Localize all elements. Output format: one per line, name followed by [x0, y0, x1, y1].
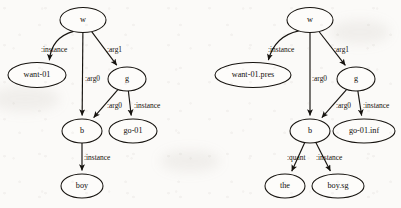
edge-label-w-g: :arg1	[107, 45, 122, 54]
node-go2[interactable]: go-01.inf	[333, 119, 395, 143]
edge-label-w2-g2: :arg1	[334, 45, 349, 54]
edge-label-w-b: :arg0	[85, 74, 100, 83]
edge-labels-layer: :instance:arg0:arg1:arg0:instance:instan…	[41, 45, 390, 162]
node-g[interactable]: g	[108, 67, 146, 91]
node-label-the: the	[280, 181, 290, 190]
node-label-b: b	[80, 126, 84, 135]
node-label-boy: boy	[76, 181, 89, 190]
edge-label-w-want: :instance	[41, 45, 68, 54]
node-want[interactable]: want-01	[8, 63, 66, 88]
node-g2[interactable]: g	[337, 67, 375, 91]
edge-label-g-b: :arg0	[107, 101, 122, 110]
node-label-want: want-01	[24, 70, 51, 79]
edges-layer	[49, 31, 361, 171]
node-b2[interactable]: b	[290, 119, 330, 143]
diagram-canvas: wwant-01gbgo-01boywwant-01.presgbgo-01.i…	[0, 0, 401, 208]
edge-label-g-go: :instance	[134, 101, 161, 110]
edge-label-b-boy: :instance	[84, 153, 111, 162]
node-label-w2: w	[307, 15, 313, 24]
node-boy[interactable]: boy	[61, 174, 103, 198]
edge-label-g2-go2: :instance	[363, 101, 390, 110]
edge-label-b2-the: :quant	[287, 153, 306, 162]
amr-graph-pair: wwant-01gbgo-01boywwant-01.presgbgo-01.i…	[0, 0, 401, 208]
edge-label-w2-want2: :instance	[268, 45, 295, 54]
node-label-go: go-01	[123, 126, 142, 135]
node-label-g: g	[125, 74, 129, 83]
edge-g-go	[128, 91, 131, 116]
node-label-want2: want-01.pres	[232, 70, 275, 79]
node-label-go2: go-01.inf	[349, 126, 380, 135]
node-w2[interactable]: w	[287, 8, 333, 33]
node-b[interactable]: b	[62, 119, 102, 143]
edge-w-b	[82, 33, 83, 116]
edge-label-w2-b2: :arg0	[312, 74, 327, 83]
edge-label-b2-boysg: :instance	[316, 153, 343, 162]
node-label-g2: g	[354, 74, 358, 83]
node-want2[interactable]: want-01.pres	[215, 63, 291, 88]
node-label-w: w	[80, 15, 86, 24]
edge-g2-go2	[358, 91, 362, 116]
node-label-b2: b	[308, 126, 312, 135]
node-boysg[interactable]: boy.sg	[312, 174, 364, 198]
node-label-boysg: boy.sg	[327, 181, 348, 190]
edge-label-g2-b2: :arg0	[336, 101, 351, 110]
node-go[interactable]: go-01	[109, 119, 157, 143]
node-the[interactable]: the	[265, 174, 305, 198]
node-w[interactable]: w	[60, 8, 106, 33]
